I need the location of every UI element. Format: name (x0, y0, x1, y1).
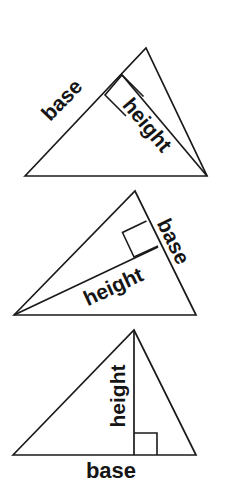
geometry-figure: Triangle base and height illustrations b… (0, 0, 229, 485)
triangle-bottom-outline (13, 330, 196, 455)
triangle-middle-panel: base height (14, 191, 196, 315)
triangle-bottom-height-label: height (106, 365, 129, 428)
triangle-bottom-base-label: base (86, 458, 136, 483)
triangle-bottom-right-angle-icon (134, 433, 157, 455)
triangle-diagram: Triangle base and height illustrations b… (0, 0, 229, 485)
triangle-top-panel: base height (25, 48, 207, 176)
triangle-bottom-panel: height base (13, 330, 196, 483)
triangle-top-base-label: base (37, 74, 87, 124)
triangle-middle-height-label: height (80, 262, 147, 309)
triangle-top-height-label: height (118, 93, 176, 156)
